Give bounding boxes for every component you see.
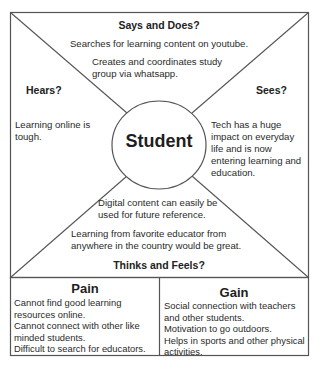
gain-title: Gain [160,285,308,300]
hears-item-line-1: Learning online is [15,119,90,131]
says-and-does-item-2-line-1: Creates and coordinates study [92,56,222,68]
hears-heading: Hears? [26,84,62,96]
pain-line-4: minded students. [14,332,158,344]
sees-item-line-1: Tech has a huge [211,119,281,131]
gain-line-1: Social connection with teachers [164,300,308,312]
sees-item-line-2: impact on everyday [211,131,294,143]
pain-title: Pain [11,281,159,296]
gain-line-2: and other students. [164,312,308,324]
pain-line-1: Cannot find good learning [14,297,158,309]
says-and-does-heading: Says and Does? [60,19,258,31]
pain-line-2: resources online. [14,309,158,321]
sees-item-line-5: education. [211,167,255,179]
sees-heading: Sees? [256,84,287,96]
pain-line-3: Cannot connect with other like [14,320,158,332]
sees-item-line-4: entering learning and [211,155,301,167]
thinks-and-feels-item-1-line-2: used for future reference. [98,209,206,221]
pain-list: Cannot find good learning resources onli… [14,297,158,355]
gain-list: Social connection with teachers and othe… [164,300,308,358]
thinks-and-feels-item-2-line-2: anywhere in the country would be great. [71,240,241,252]
pain-line-5: Difficult to search for educators. [14,343,158,355]
says-and-does-item-2-line-2: group via whatsapp. [92,68,178,80]
gain-line-4: Helps in sports and other physical [164,335,308,347]
gain-line-3: Motivation to go outdoors. [164,323,308,335]
thinks-and-feels-item-2-line-1: Learning from favorite educator from [71,228,226,240]
empathy-map-diagram: Says and Does? Searches for learning con… [0,0,316,366]
thinks-and-feels-item-1-line-1: Digital content can easily be [98,197,217,209]
center-label-student: Student [112,131,206,152]
thinks-and-feels-heading: Thinks and Feels? [60,259,258,271]
sees-item-line-3: life and is now [211,143,272,155]
gain-line-5: activities. [164,346,308,358]
says-and-does-item-1: Searches for learning content on youtube… [40,38,278,50]
hears-item-line-2: tough. [15,131,42,143]
